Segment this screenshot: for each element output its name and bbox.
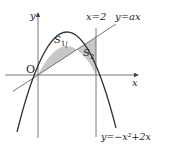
line-y-ax — [13, 24, 116, 91]
parabola-label: y=−x²+2x — [100, 131, 151, 142]
s1-label: S 1 — [54, 34, 65, 48]
svg-text:S: S — [83, 47, 90, 58]
vertical-line-label: x=2 — [86, 11, 106, 22]
svg-text:2: 2 — [90, 53, 94, 61]
y-axis-label: y — [29, 10, 36, 21]
origin-label: O — [26, 63, 35, 76]
x-axis-label: x — [132, 77, 138, 88]
region-s1 — [38, 46, 77, 75]
svg-text:S: S — [54, 34, 61, 45]
function-graph: y x O x=2 y=ax S 1 S 2 y=−x²+2x — [0, 0, 169, 149]
svg-text:1: 1 — [61, 40, 65, 48]
line-label: y=ax — [114, 11, 141, 22]
